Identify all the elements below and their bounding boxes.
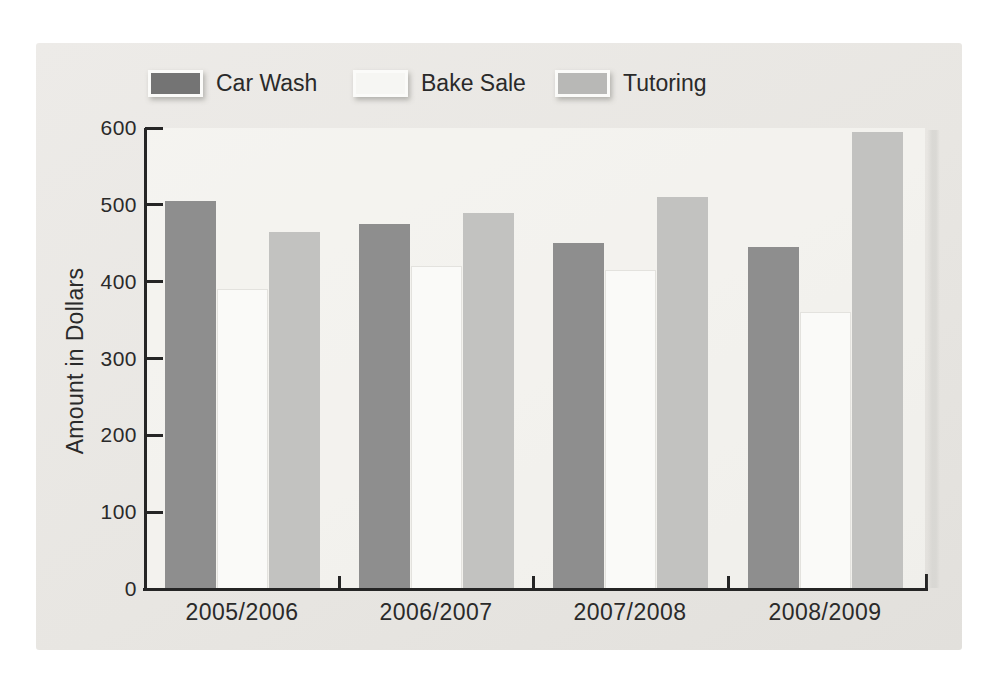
legend-item-tutoring: Tutoring [555, 69, 707, 97]
legend-swatch-tutoring [555, 70, 610, 97]
legend-label-car-wash: Car Wash [216, 70, 317, 97]
bar-car-wash-2007/2008 [553, 243, 604, 589]
legend-item-bake-sale: Bake Sale [353, 69, 526, 97]
y-tick-label-300: 300 [57, 347, 137, 371]
y-tick-300 [145, 357, 163, 360]
x-axis-separator-2 [532, 576, 535, 589]
y-tick-600 [145, 127, 163, 130]
y-tick-500 [145, 203, 163, 206]
x-axis-separator-3 [727, 576, 730, 589]
bar-bake-sale-2007/2008 [605, 270, 656, 589]
x-category-label-2007/2008: 2007/2008 [533, 599, 727, 626]
bar-tutoring-2008/2009 [852, 132, 903, 589]
y-tick-400 [145, 280, 163, 283]
y-tick-label-500: 500 [57, 193, 137, 217]
legend-label-tutoring: Tutoring [623, 70, 707, 97]
y-tick-label-100: 100 [57, 500, 137, 524]
bar-car-wash-2008/2009 [748, 247, 799, 589]
legend-swatch-bake-sale [353, 70, 408, 97]
y-tick-label-600: 600 [57, 116, 137, 140]
legend-swatch-car-wash [148, 70, 203, 97]
x-category-label-2008/2009: 2008/2009 [728, 599, 922, 626]
x-category-label-2005/2006: 2005/2006 [145, 599, 339, 626]
scan-artifact-strip [927, 130, 940, 588]
y-tick-label-0: 0 [57, 577, 137, 601]
bar-tutoring-2006/2007 [463, 213, 514, 589]
bar-bake-sale-2005/2006 [217, 289, 268, 589]
legend-label-bake-sale: Bake Sale [421, 70, 526, 97]
bar-chart: Car Wash Bake Sale Tutoring Amount in Do… [0, 0, 1000, 680]
y-tick-100 [145, 511, 163, 514]
x-axis-separator-1 [338, 576, 341, 589]
legend-item-car-wash: Car Wash [148, 69, 317, 97]
y-tick-label-200: 200 [57, 423, 137, 447]
x-category-label-2006/2007: 2006/2007 [339, 599, 533, 626]
bar-tutoring-2007/2008 [657, 197, 708, 589]
x-axis-line [143, 588, 928, 591]
y-tick-label-400: 400 [57, 270, 137, 294]
bar-tutoring-2005/2006 [269, 232, 320, 589]
bar-car-wash-2005/2006 [165, 201, 216, 589]
bar-bake-sale-2006/2007 [411, 266, 462, 589]
bar-car-wash-2006/2007 [359, 224, 410, 589]
bar-bake-sale-2008/2009 [800, 312, 851, 589]
y-tick-200 [145, 434, 163, 437]
y-axis-line [144, 128, 147, 591]
